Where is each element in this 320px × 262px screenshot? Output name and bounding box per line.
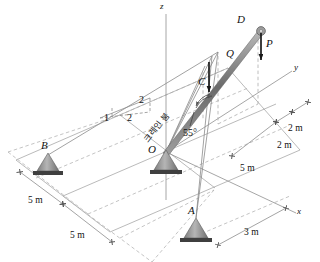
point-label-B: B bbox=[41, 140, 48, 151]
load-label-P: P bbox=[266, 38, 273, 49]
crane-boom-diagram: z y x O A B C D Q P 크레인 붐 55° 1 2 2 5 m … bbox=[0, 0, 320, 262]
dim-label-lower-2m: 2 m bbox=[277, 141, 292, 151]
point-label-A: A bbox=[188, 205, 195, 216]
point-label-Q: Q bbox=[226, 48, 234, 59]
dim-label-left-5m: 5 m bbox=[28, 196, 43, 206]
ground-grid bbox=[16, 68, 300, 232]
cable-B-Q bbox=[48, 52, 218, 155]
axis-lines bbox=[166, 14, 296, 213]
dim-right-5m bbox=[232, 122, 276, 156]
angle-label-55: 55° bbox=[183, 128, 197, 138]
slope-label-run: 1 bbox=[104, 113, 109, 123]
slope-label-rise: 2 bbox=[139, 95, 144, 105]
point-label-O: O bbox=[148, 144, 156, 155]
support-A bbox=[180, 218, 212, 242]
dim-2m-lower bbox=[276, 112, 292, 122]
slope-label-mid: 2 bbox=[127, 113, 132, 123]
z-axis-label: z bbox=[160, 2, 164, 11]
y-axis bbox=[166, 71, 292, 152]
dim-2m-upper bbox=[292, 102, 308, 112]
point-label-D: D bbox=[237, 14, 245, 25]
dim-label-upper-2m: 2 m bbox=[288, 124, 303, 134]
point-label-C: C bbox=[198, 76, 205, 87]
y-axis-label: y bbox=[294, 63, 298, 72]
support-B bbox=[33, 153, 63, 175]
dim-label-right-5m: 5 m bbox=[240, 164, 255, 174]
x-axis-label: x bbox=[297, 207, 301, 216]
x-axis bbox=[166, 152, 296, 213]
crane-boom bbox=[163, 31, 262, 156]
dim-label-bottom-3m: 3 m bbox=[244, 228, 259, 238]
dim-label-lower-5m: 5 m bbox=[70, 231, 85, 241]
